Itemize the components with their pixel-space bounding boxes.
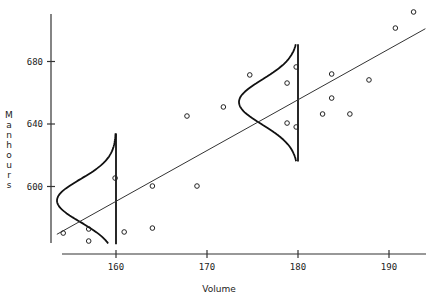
data-point	[221, 105, 226, 110]
data-point	[285, 121, 290, 126]
data-point	[393, 26, 398, 31]
data-point	[247, 73, 252, 78]
data-point	[61, 231, 66, 236]
y-axis-title-char: n	[6, 130, 12, 140]
y-axis-title-char: s	[7, 180, 12, 190]
y-tick-label: 600	[27, 182, 43, 192]
x-tick-label: 170	[199, 262, 215, 272]
data-point	[285, 81, 290, 86]
data-point	[185, 114, 190, 119]
data-point	[329, 96, 334, 101]
y-tick-label: 680	[27, 57, 43, 67]
data-point	[195, 184, 200, 189]
y-axis-title-char: r	[7, 170, 11, 180]
x-tick-label: 180	[290, 262, 306, 272]
data-point	[86, 239, 91, 244]
scatter-chart: 600640680 160170180190 Volume Manhours	[0, 0, 432, 304]
data-point	[150, 226, 155, 231]
normal-curve	[57, 133, 116, 243]
y-tick-label: 640	[27, 119, 43, 129]
y-axis-title-char: a	[6, 120, 12, 130]
data-point	[329, 72, 334, 77]
y-axis-title-char: o	[6, 150, 12, 160]
axes	[51, 14, 426, 254]
x-tick-label: 160	[108, 262, 124, 272]
y-axis-title-char: h	[6, 140, 12, 150]
x-tick-label: 190	[381, 262, 397, 272]
data-point	[150, 184, 155, 189]
fit-line	[57, 29, 426, 235]
data-point	[320, 112, 325, 117]
y-axis-title-char: M	[5, 110, 13, 120]
y-axis-title: Manhours	[5, 110, 13, 190]
y-axis-title-char: u	[6, 160, 12, 170]
regression-line	[57, 29, 426, 235]
data-point	[122, 230, 127, 235]
x-axis-title: Volume	[202, 284, 236, 294]
data-point	[367, 78, 372, 83]
x-ticks: 160170180190	[108, 250, 397, 272]
normal-curve	[239, 44, 296, 161]
data-point	[411, 10, 416, 15]
data-point	[348, 112, 353, 117]
data-points	[61, 10, 416, 244]
